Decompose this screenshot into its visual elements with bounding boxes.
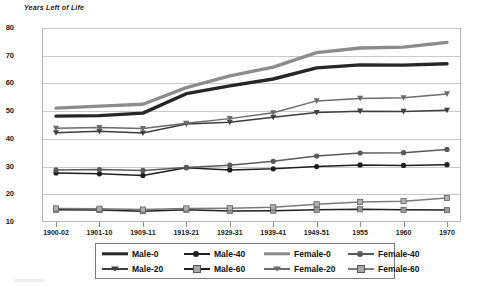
gridline — [43, 56, 460, 57]
x-axis-tick — [56, 222, 57, 227]
gridline — [43, 28, 460, 29]
x-axis-tick-label: 1909-11 — [130, 229, 155, 236]
x-axis-tick-label: 1901-10 — [87, 229, 113, 236]
legend-swatch-icon — [102, 248, 128, 260]
x-axis-tick-label: 1949-51 — [304, 229, 330, 236]
chart-legend: Male-0Male-40Female-0Female-40Male-20Mal… — [95, 243, 395, 279]
legend-label: Female-20 — [294, 264, 336, 274]
x-axis-tick-label: 1960 — [396, 229, 412, 236]
x-axis-tick — [99, 222, 100, 227]
legend-item-male-60[interactable]: Male-60 — [184, 262, 245, 276]
legend-marker-icon — [357, 251, 363, 257]
x-axis-tick-label: 1919-21 — [173, 229, 199, 236]
plot-area — [42, 28, 461, 222]
gridline — [43, 194, 460, 195]
legend-swatch-icon — [102, 263, 128, 275]
line-chart: Years Left of Life Male-0Male-40Female-0… — [0, 0, 481, 287]
legend-label: Female-40 — [378, 249, 420, 259]
legend-marker-icon — [193, 265, 201, 273]
legend-swatch-icon — [184, 248, 210, 260]
legend-swatch-icon — [184, 263, 210, 275]
legend-item-male-20[interactable]: Male-20 — [102, 262, 163, 276]
legend-label: Male-0 — [132, 249, 158, 259]
legend-swatch-icon — [264, 248, 290, 260]
legend-item-female-20[interactable]: Female-20 — [264, 262, 336, 276]
chart-axis-title: Years Left of Life — [24, 4, 84, 11]
legend-marker-icon — [357, 265, 365, 273]
x-axis-tick — [186, 222, 187, 227]
x-axis-tick-label: 1900-02 — [43, 229, 69, 236]
x-axis-tick-label: 1939-41 — [260, 229, 286, 236]
legend-label: Female-0 — [294, 249, 331, 259]
legend-swatch-icon — [348, 263, 374, 275]
legend-label: Male-60 — [214, 264, 245, 274]
gridline — [43, 139, 460, 140]
legend-item-female-40[interactable]: Female-40 — [348, 247, 420, 261]
x-axis-tick — [360, 222, 361, 227]
legend-items: Male-0Male-40Female-0Female-40Male-20Mal… — [96, 244, 468, 278]
x-axis-tick-label: 1955 — [352, 229, 368, 236]
gridline — [43, 83, 460, 84]
x-axis-tick — [404, 222, 405, 227]
legend-item-female-60[interactable]: Female-60 — [348, 262, 420, 276]
legend-label: Female-60 — [378, 264, 420, 274]
x-axis-tick — [230, 222, 231, 227]
legend-swatch-icon — [348, 248, 374, 260]
legend-item-male-40[interactable]: Male-40 — [184, 247, 245, 261]
x-axis-tick-label: 1929-31 — [217, 229, 243, 236]
legend-item-male-0[interactable]: Male-0 — [102, 247, 158, 261]
gridline — [43, 167, 460, 168]
legend-label: Male-40 — [214, 249, 245, 259]
legend-marker-icon — [273, 267, 281, 272]
gridline — [43, 111, 460, 112]
legend-marker-icon — [193, 251, 199, 257]
x-axis-tick — [273, 222, 274, 227]
x-axis-tick — [143, 222, 144, 227]
page-artifact — [14, 279, 44, 282]
legend-swatch-icon — [264, 263, 290, 275]
x-axis-tick — [447, 222, 448, 227]
x-axis-tick-label: 1970 — [439, 229, 455, 236]
legend-marker-icon — [111, 267, 119, 272]
legend-item-female-0[interactable]: Female-0 — [264, 247, 331, 261]
x-axis-tick — [317, 222, 318, 227]
legend-label: Male-20 — [132, 264, 163, 274]
